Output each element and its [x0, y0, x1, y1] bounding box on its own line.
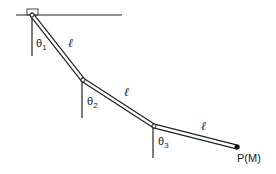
- joint-1: [81, 78, 85, 82]
- pivot-joint: [30, 13, 34, 17]
- angle-label-1: θ1: [36, 37, 47, 49]
- end-point-label: P(M): [237, 152, 261, 164]
- pendulum-diagram: [0, 0, 276, 174]
- length-label-1: ℓ: [68, 36, 73, 51]
- length-label-2: ℓ: [124, 85, 129, 100]
- length-label-3: ℓ: [201, 119, 206, 134]
- angle-label-3: θ3: [158, 135, 169, 147]
- angle-label-2: θ2: [87, 95, 98, 107]
- end-mass: [235, 145, 240, 150]
- joint-2: [152, 124, 156, 128]
